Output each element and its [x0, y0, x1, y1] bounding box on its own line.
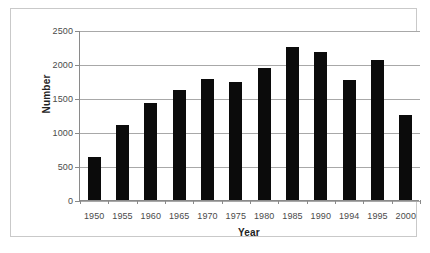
x-axis-tick-label: 1990 — [311, 211, 331, 221]
bar — [371, 60, 384, 200]
gridline — [80, 65, 420, 66]
y-axis-tick-label: 0 — [68, 196, 73, 206]
x-axis-tick — [108, 200, 109, 204]
y-axis-tick-label: 2500 — [53, 26, 73, 36]
x-axis-tick-label: 1994 — [339, 211, 359, 221]
x-axis-tick — [278, 200, 279, 204]
x-axis-tick — [193, 200, 194, 204]
bar — [116, 125, 129, 200]
x-axis-tick — [392, 200, 393, 204]
y-axis-tick — [75, 99, 80, 100]
gridline — [80, 167, 420, 168]
y-axis-tick-label: 1000 — [53, 128, 73, 138]
y-axis-tick — [75, 31, 80, 32]
plot-area: 0500100015002000250019501955196019651970… — [79, 31, 419, 201]
x-axis-tick — [250, 200, 251, 204]
chart-frame: Number 050010001500200025001950195519601… — [10, 8, 417, 237]
y-axis-tick — [75, 65, 80, 66]
x-axis-tick-label: 1980 — [254, 211, 274, 221]
gridline — [80, 99, 420, 100]
bar — [343, 80, 356, 200]
x-axis-tick — [165, 200, 166, 204]
x-axis-tick-label: 1950 — [84, 211, 104, 221]
x-axis-title: Year — [79, 227, 419, 238]
x-axis-tick — [420, 200, 421, 204]
x-axis-tick — [307, 200, 308, 204]
x-axis-tick-label: 2000 — [396, 211, 416, 221]
y-axis-tick-label: 500 — [58, 162, 73, 172]
bar — [286, 47, 299, 200]
y-axis-tick — [75, 167, 80, 168]
bar — [88, 157, 101, 200]
x-axis-tick-label: 1995 — [367, 211, 387, 221]
x-axis-tick-label: 1970 — [197, 211, 217, 221]
y-axis-title: Number — [41, 75, 52, 114]
x-axis-tick — [222, 200, 223, 204]
gridline — [80, 31, 420, 32]
x-axis-tick-label: 1985 — [282, 211, 302, 221]
y-axis-tick-label: 2000 — [53, 60, 73, 70]
bar — [229, 82, 242, 200]
x-axis-tick — [335, 200, 336, 204]
x-axis-tick-label: 1965 — [169, 211, 189, 221]
x-axis-tick-label: 1960 — [141, 211, 161, 221]
y-axis-tick-label: 1500 — [53, 94, 73, 104]
x-axis-tick-label: 1975 — [226, 211, 246, 221]
x-axis-tick — [137, 200, 138, 204]
bar — [258, 68, 271, 200]
x-axis-tick — [363, 200, 364, 204]
y-axis-tick — [75, 133, 80, 134]
x-axis-tick — [80, 200, 81, 204]
bar — [144, 103, 157, 200]
x-axis-tick-label: 1955 — [112, 211, 132, 221]
bar — [399, 115, 412, 200]
gridline — [80, 133, 420, 134]
bar — [201, 79, 214, 200]
bar — [173, 90, 186, 200]
bar — [314, 52, 327, 200]
